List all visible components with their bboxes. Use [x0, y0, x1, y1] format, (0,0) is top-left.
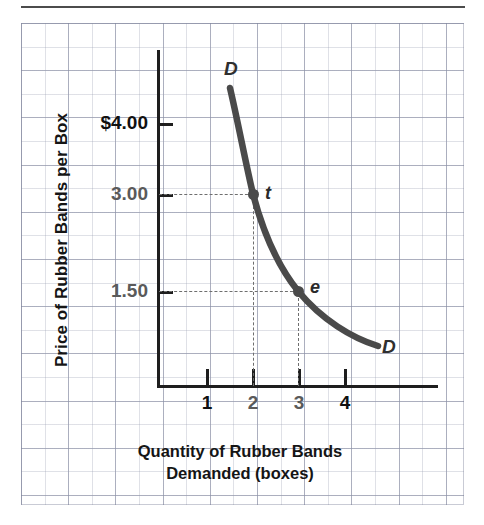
x-tick-label-3: 3 — [282, 392, 316, 414]
graph-paper-background — [21, 23, 464, 505]
x-axis-title-line-1: Quantity of Rubber Bands — [40, 440, 440, 462]
data-point-label-e: e — [310, 277, 320, 298]
y-axis-line — [157, 50, 160, 387]
y-tick-label-3.00: 3.00 — [38, 183, 148, 205]
top-divider-rule — [21, 6, 465, 8]
y-tick-label-4.00: $4.00 — [38, 112, 148, 134]
guide-line-vertical-e — [298, 293, 299, 386]
data-point-dot-t — [248, 189, 259, 200]
x-tick-label-2: 2 — [236, 392, 270, 414]
x-axis-title: Quantity of Rubber Bands Demanded (boxes… — [40, 440, 440, 485]
guide-line-horizontal-t — [159, 194, 253, 195]
x-tick-mark-4 — [344, 369, 347, 386]
chart-figure: Price of Rubber Bands per Box Quantity o… — [0, 0, 484, 525]
x-tick-mark-1 — [206, 369, 209, 386]
x-tick-label-4: 4 — [328, 392, 362, 414]
data-point-label-t: t — [265, 183, 271, 204]
y-tick-label-1.50: 1.50 — [38, 280, 148, 302]
guide-line-horizontal-e — [159, 291, 298, 292]
curve-label-bottom-D: D — [382, 336, 396, 358]
y-tick-mark-4.00 — [160, 123, 173, 126]
x-tick-label-1: 1 — [190, 392, 224, 414]
curve-label-top-D: D — [224, 58, 238, 80]
data-point-dot-e — [293, 286, 304, 297]
x-axis-title-line-2: Demanded (boxes) — [40, 462, 440, 484]
